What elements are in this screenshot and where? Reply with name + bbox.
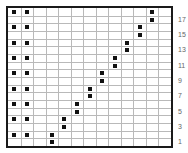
grid-row-line	[8, 123, 171, 124]
stitch-dot	[25, 87, 29, 91]
stitch-dot	[62, 125, 66, 129]
row-label: 15	[178, 31, 186, 39]
stitch-dot	[125, 41, 129, 45]
grid-row-line	[8, 100, 171, 101]
grid-row-line	[8, 85, 171, 86]
row-label: 9	[178, 77, 182, 85]
grid-row-line	[8, 23, 171, 24]
stitch-dot	[12, 87, 16, 91]
grid-row-line	[8, 92, 171, 93]
stitch-dot	[62, 117, 66, 121]
stitch-dot	[113, 56, 117, 60]
row-label: 5	[178, 108, 182, 116]
stitch-dot	[25, 25, 29, 29]
stitch-dot	[75, 102, 79, 106]
grid-row-line	[8, 131, 171, 132]
grid-row-line	[8, 54, 171, 55]
stitch-dot	[25, 41, 29, 45]
stitch-dot	[12, 117, 16, 121]
row-label: 3	[178, 123, 182, 131]
stitch-dot	[138, 25, 142, 29]
row-label: 1	[178, 138, 182, 146]
stitch-dot	[88, 87, 92, 91]
stitch-dot	[138, 33, 142, 37]
grid-row-line	[8, 108, 171, 109]
row-label: 13	[178, 46, 186, 54]
stitch-dot	[12, 71, 16, 75]
stitch-dot	[12, 10, 16, 14]
stitch-dot	[12, 133, 16, 137]
stitch-dot	[75, 110, 79, 114]
grid-row-line	[8, 46, 171, 47]
stitch-dot	[12, 56, 16, 60]
stitch-dot	[12, 102, 16, 106]
stitch-dot	[25, 117, 29, 121]
stitch-dot	[125, 48, 129, 52]
stitch-dot	[50, 140, 54, 144]
stitch-dot	[100, 79, 104, 83]
stitch-dot	[25, 133, 29, 137]
row-label: 7	[178, 92, 182, 100]
stitch-dot	[88, 94, 92, 98]
stitch-dot	[12, 25, 16, 29]
stitch-dot	[12, 41, 16, 45]
stitch-dot	[113, 64, 117, 68]
stitch-dot	[25, 10, 29, 14]
grid-cells	[8, 8, 171, 146]
grid-row-line	[8, 77, 171, 78]
stitch-dot	[150, 10, 154, 14]
grid-row-line	[8, 39, 171, 40]
stitch-dot	[25, 71, 29, 75]
stitch-dot	[100, 71, 104, 75]
row-label: 17	[178, 16, 186, 24]
grid-row-line	[8, 62, 171, 63]
stitch-dot	[150, 18, 154, 22]
stitch-dot	[25, 102, 29, 106]
stitch-dot	[25, 56, 29, 60]
grid-row-line	[8, 31, 171, 32]
grid-row-line	[8, 115, 171, 116]
stitch-dot	[50, 133, 54, 137]
pattern-grid	[6, 6, 173, 148]
grid-row-line	[8, 69, 171, 70]
grid-row-line	[8, 16, 171, 17]
grid-row-line	[8, 138, 171, 139]
row-label: 11	[178, 62, 185, 70]
